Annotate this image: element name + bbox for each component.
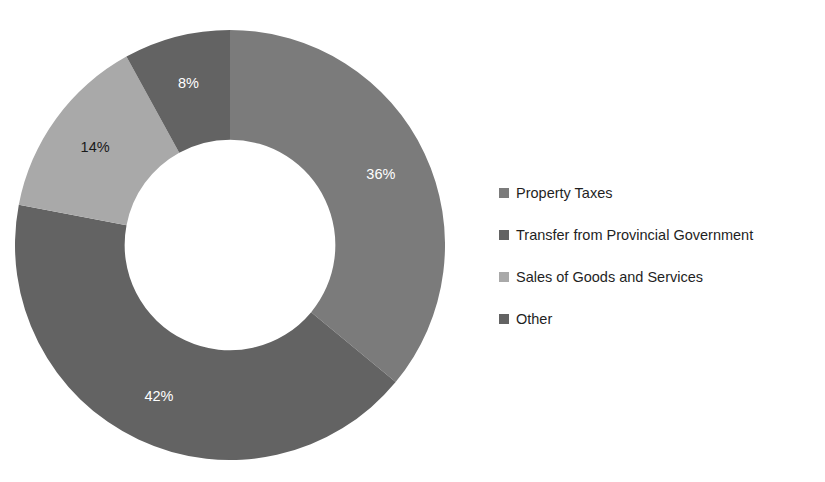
donut-chart-plot-area: 36%42%14%8% xyxy=(15,30,445,460)
legend-item-property-taxes[interactable]: Property Taxes xyxy=(499,172,819,214)
donut-slice[interactable] xyxy=(230,30,445,382)
legend-item-sales-of-goods-and-services[interactable]: Sales of Goods and Services xyxy=(499,256,819,298)
legend-swatch-icon xyxy=(499,272,509,282)
legend-item-label: Other xyxy=(516,312,552,327)
donut-slice-value-label: 36% xyxy=(366,166,395,182)
donut-chart-figure: 36%42%14%8% Property Taxes Transfer from… xyxy=(0,0,825,482)
donut-slice-group xyxy=(15,30,445,460)
donut-slice-value-label: 8% xyxy=(178,75,199,91)
legend-item-label: Sales of Goods and Services xyxy=(516,270,703,285)
legend-swatch-icon xyxy=(499,314,509,324)
legend-item-label: Transfer from Provincial Government xyxy=(516,228,753,243)
donut-slice-value-label: 14% xyxy=(81,139,110,155)
donut-chart-svg: 36%42%14%8% xyxy=(15,30,445,460)
legend-swatch-icon xyxy=(499,188,509,198)
legend-item-transfer-from-provincial-government[interactable]: Transfer from Provincial Government xyxy=(499,214,819,256)
chart-legend: Property Taxes Transfer from Provincial … xyxy=(499,172,819,340)
donut-slice-value-label: 42% xyxy=(144,388,173,404)
legend-item-label: Property Taxes xyxy=(516,186,612,201)
legend-item-other[interactable]: Other xyxy=(499,298,819,340)
legend-swatch-icon xyxy=(499,230,509,240)
